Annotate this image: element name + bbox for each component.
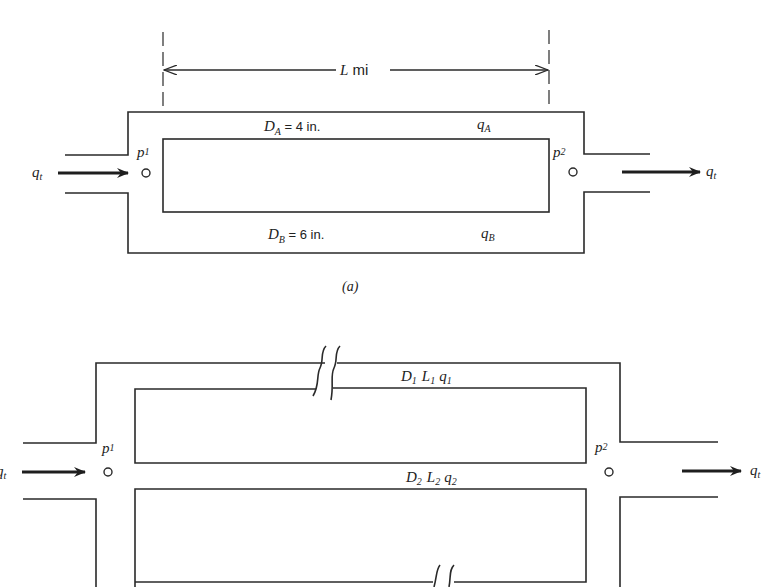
outlet-pressure-label: p2 <box>552 144 566 160</box>
inlet-pressure-node <box>104 468 112 476</box>
length-label: L mi <box>339 61 368 78</box>
pipe-a-flow-label: qA <box>477 116 492 134</box>
parallel-pipe-diagram: L mi DA = 4 in. qA DB = 6 in. qB qt p1 <box>0 0 767 587</box>
lower-inner-block <box>135 489 586 587</box>
figure-a-caption: (a) <box>342 279 359 295</box>
inlet-pressure-label: p1 <box>101 440 115 456</box>
pipe-1-outer-wall-right <box>337 363 718 442</box>
figure-b: D1L1q1 D2L2q2 qt p1 p2 qt <box>0 346 761 587</box>
pipe-2-outer-wall-left <box>23 499 96 587</box>
outlet-pressure-node <box>569 168 577 176</box>
inlet-pressure-node <box>142 169 150 177</box>
outlet-pressure-node <box>605 468 613 476</box>
outlet-pressure-label: p2 <box>594 439 608 455</box>
pipe-b-outer-wall <box>65 192 650 253</box>
outlet-flow-label: qt <box>706 163 717 181</box>
pipe-2-label: D2L2q2 <box>405 469 457 487</box>
figure-a: L mi DA = 4 in. qA DB = 6 in. qB qt p1 <box>32 30 717 295</box>
pipe-b-flow-label: qB <box>481 225 495 243</box>
pipe-1-outer-wall-left <box>23 363 325 443</box>
inlet-flow-label: qt <box>32 164 43 182</box>
inlet-flow-label: qt <box>0 463 7 481</box>
pipe-break-icon <box>331 346 340 400</box>
pipe-a-diameter-label: DA = 4 in. <box>263 118 320 137</box>
pipe-1-label: D1L1q1 <box>400 368 452 386</box>
pipe-break-icon <box>434 565 440 587</box>
pipe-break-icon <box>449 565 454 587</box>
outlet-flow-label: qt <box>750 462 761 480</box>
pipe-2-outer-wall-right <box>620 497 718 587</box>
inner-block <box>163 139 549 212</box>
inlet-pressure-label: p1 <box>136 144 150 160</box>
pipe-b-diameter-label: DB = 6 in. <box>267 226 324 245</box>
upper-inner-block <box>135 388 586 463</box>
